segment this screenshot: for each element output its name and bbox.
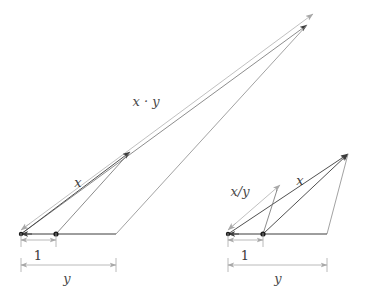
product-ray-origin-arrow [21, 223, 30, 230]
product-ray-outer [21, 14, 313, 230]
unit-side-label: x [74, 175, 82, 190]
scale-dimension-label: y [62, 271, 71, 286]
unit-dimension [21, 233, 56, 247]
unit-to-xtip-line [56, 152, 130, 234]
right-division-diagram: 1 y x/y x [226, 154, 348, 286]
geometry-figure: 1 y x · y x [0, 0, 367, 289]
unit-side-vector [21, 152, 130, 234]
unit-dimension [228, 233, 263, 247]
product-closing-edge [116, 25, 307, 234]
quotient-label: x/y [230, 184, 250, 199]
product-ray-inner [21, 25, 307, 234]
product-label: x · y [132, 94, 160, 109]
unit-dimension-label: 1 [34, 248, 42, 263]
unit-side-label: x [296, 173, 304, 188]
left-multiplication-diagram: 1 y x · y x [19, 14, 313, 286]
diagram-canvas: 1 y x · y x [0, 0, 367, 289]
unit-dimension-label: 1 [241, 248, 249, 263]
scale-dimension-label: y [273, 271, 282, 286]
